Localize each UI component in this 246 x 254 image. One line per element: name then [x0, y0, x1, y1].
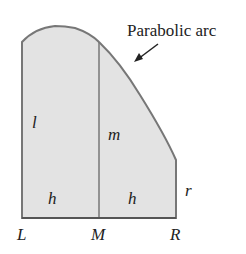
label-h-right: h	[128, 189, 137, 208]
arrow-head-icon	[134, 53, 143, 62]
label-m: m	[108, 125, 120, 144]
label-r: r	[185, 181, 192, 200]
label-R: R	[169, 225, 181, 244]
label-L: L	[16, 225, 26, 244]
label-h-left: h	[48, 189, 57, 208]
simpson-rule-diagram: Parabolic arc l m r h h L M R	[0, 0, 246, 254]
label-l: l	[32, 113, 37, 132]
parabolic-arc-label: Parabolic arc	[127, 21, 217, 40]
label-M: M	[90, 225, 106, 244]
